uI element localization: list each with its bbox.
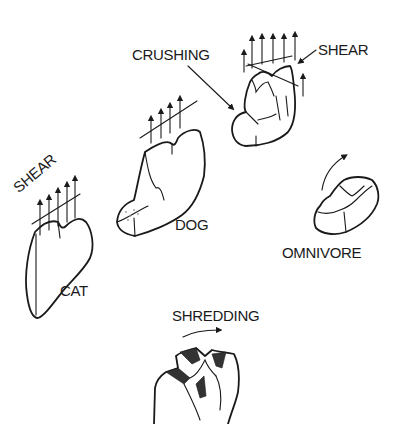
- crushing-pointer-arrow: [188, 66, 232, 108]
- label-cat: CAT: [60, 283, 88, 298]
- tooth-diagram: CRUSHING SHEAR SHEAR DOG CAT OMNIVORE SH…: [0, 0, 407, 424]
- dog-force-arrows: [140, 98, 197, 143]
- label-shear-top: SHEAR: [318, 42, 368, 57]
- omnivore-rotation-arrow: [322, 156, 345, 190]
- label-dog: DOG: [175, 217, 208, 232]
- shredding-rotation-arrow: [183, 330, 219, 337]
- shear-pointer-arrow: [300, 50, 316, 62]
- label-omnivore: OMNIVORE: [282, 245, 361, 260]
- omnivore-tooth-illustration: [314, 156, 378, 234]
- cat-shear-arrows: [32, 178, 80, 235]
- label-crushing: CRUSHING: [132, 47, 210, 62]
- shredding-tooth-illustration: [154, 330, 239, 424]
- label-shredding: SHREDDING: [172, 308, 259, 323]
